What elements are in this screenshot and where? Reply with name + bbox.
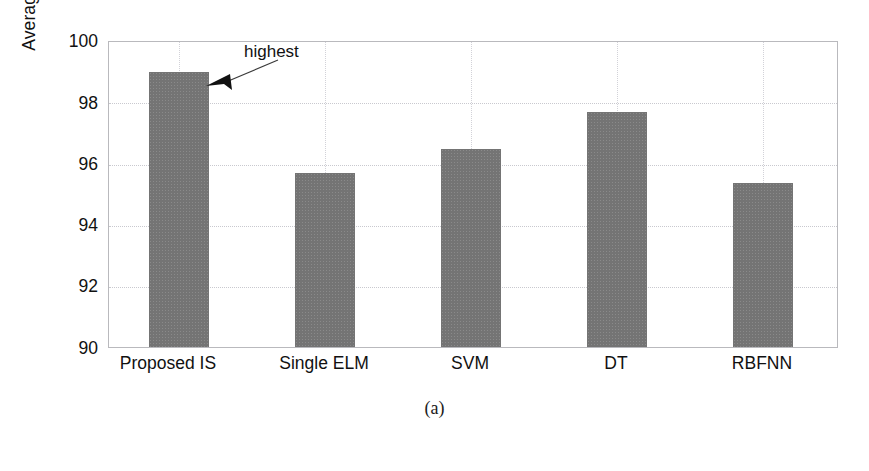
bar-single-elm <box>295 173 355 347</box>
arrow-pointer-icon <box>196 56 280 98</box>
x-tick-label-rbfnn: RBFNN <box>682 352 842 374</box>
x-tick-label-dt: DT <box>536 352 696 374</box>
figure-caption: (a) <box>0 398 869 419</box>
y-tick-label-96: 96 <box>52 155 98 173</box>
x-tick-label-proposed-is: Proposed IS <box>88 352 248 374</box>
figure-bar-chart: Average classification accuracy (%) 100 … <box>0 0 869 471</box>
y-tick-label-94: 94 <box>52 216 98 234</box>
y-tick-label-92: 92 <box>52 277 98 295</box>
y-tick-label-98: 98 <box>52 94 98 112</box>
bar-svm <box>441 149 501 347</box>
y-tick-label-100: 100 <box>52 32 98 50</box>
x-tick-label-single-elm: Single ELM <box>244 352 404 374</box>
bar-rbfnn <box>733 183 793 347</box>
x-tick-label-svm: SVM <box>390 352 550 374</box>
bar-dt <box>587 112 647 347</box>
gridline-98 <box>109 103 837 104</box>
bar-proposed-is <box>149 72 209 347</box>
